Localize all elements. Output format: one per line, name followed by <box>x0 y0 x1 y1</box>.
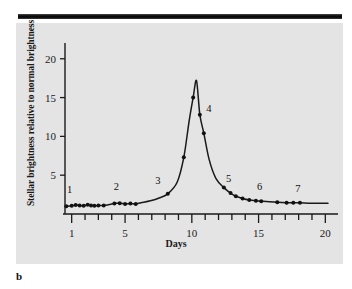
data-point-marker <box>70 204 74 208</box>
annotation-label: 5 <box>226 173 231 184</box>
y-tick-label: 20 <box>45 53 57 65</box>
data-point-marker <box>64 204 68 208</box>
data-point-marker <box>96 203 100 207</box>
data-point-marker <box>229 191 233 195</box>
y-tick-label: 10 <box>45 130 57 142</box>
data-point-marker <box>234 194 238 198</box>
light-curve-line <box>66 80 328 206</box>
data-point-marker <box>78 203 82 207</box>
data-point-marker <box>86 203 90 207</box>
data-point-marker <box>92 204 96 208</box>
data-point-marker <box>285 201 289 205</box>
data-point-marker <box>128 202 132 206</box>
x-axis-title: Days <box>0 238 352 249</box>
data-point-marker <box>298 201 302 205</box>
y-tick-label: 15 <box>45 92 57 104</box>
data-point-marker <box>134 202 138 206</box>
data-point-marker <box>112 202 116 206</box>
figure-letter: b <box>16 270 22 282</box>
annotation-label: 1 <box>67 184 72 195</box>
data-point-marker <box>166 192 170 196</box>
data-point-marker <box>198 113 202 117</box>
data-point-marker <box>202 131 206 135</box>
data-point-marker <box>259 199 263 203</box>
annotation-label: 4 <box>206 103 212 114</box>
data-point-marker <box>254 199 258 203</box>
data-point-marker <box>275 200 279 204</box>
annotation-label: 7 <box>295 183 300 194</box>
data-point-marker <box>247 198 251 202</box>
data-point-marker <box>118 201 122 205</box>
light-curve-plot: 5101520151015201234567 <box>16 23 343 264</box>
data-point-marker <box>74 203 78 207</box>
data-point-marker <box>123 202 127 206</box>
data-point-marker <box>82 204 86 208</box>
y-axis-title: Stellar brightness relative to normal br… <box>26 13 36 213</box>
annotation-label: 3 <box>155 175 160 186</box>
data-point-marker <box>182 155 186 159</box>
data-point-marker <box>102 203 106 207</box>
figure-top-rule <box>18 14 342 19</box>
annotation-label: 6 <box>257 181 262 192</box>
data-point-marker <box>191 96 195 100</box>
data-point-marker <box>241 196 245 200</box>
y-tick-label: 5 <box>51 169 57 181</box>
annotation-label: 2 <box>114 181 119 192</box>
data-point-marker <box>291 201 295 205</box>
data-point-marker <box>222 186 226 190</box>
